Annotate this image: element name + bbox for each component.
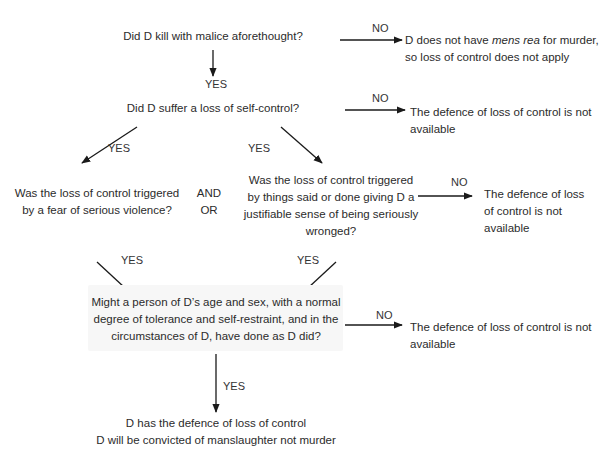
node-q1: Did D kill with malice aforethought?: [123, 28, 303, 45]
edge-label-q4-no: NO: [376, 309, 393, 322]
node-r4: The defence of loss of control is not av…: [410, 319, 592, 353]
node-q4: Might a person of D’s age and sex, with …: [91, 294, 340, 345]
edge-label-q3b-no: NO: [451, 176, 468, 189]
edge-label-q2-no: NO: [372, 92, 389, 105]
node-r1: D does not have mens rea for murder, so …: [405, 32, 599, 66]
node-final: D has the defence of loss of control D w…: [96, 415, 336, 449]
edge-label-q1-no: NO: [372, 22, 389, 35]
node-q2: Did D suffer a loss of self-control?: [127, 100, 299, 117]
edge-label-q2-yes-left: YES: [108, 142, 130, 155]
edge-label-q1-yes: YES: [205, 78, 227, 91]
node-q3a: Was the loss of control triggered by a f…: [15, 185, 179, 219]
conjunction-and-or: AND OR: [197, 185, 221, 219]
node-r3: The defence of loss of control is not av…: [484, 186, 584, 237]
edge-label-q4-yes: YES: [223, 380, 245, 393]
arrow-q2-yes-right: [281, 127, 322, 163]
edge-label-q3a-yes: YES: [121, 254, 143, 267]
edge-label-q2-yes-right: YES: [248, 142, 270, 155]
node-r2: The defence of loss of control is not av…: [410, 104, 592, 138]
edge-label-q3b-yes: YES: [297, 254, 319, 267]
node-q3b: Was the loss of control triggered by thi…: [244, 172, 419, 240]
